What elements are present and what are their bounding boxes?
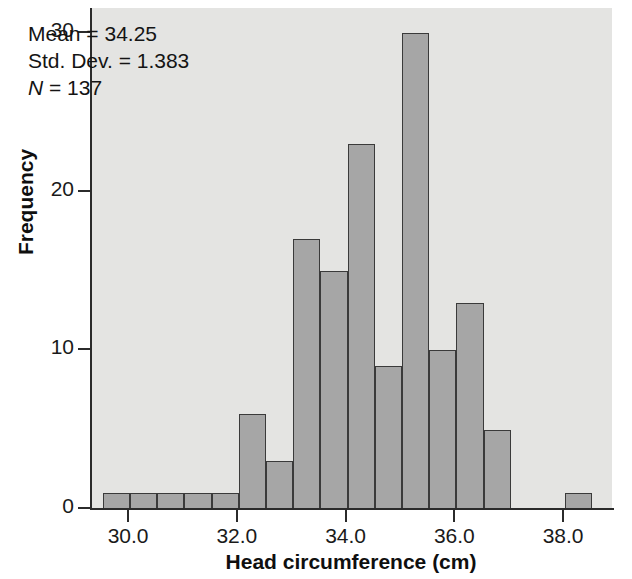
histogram-bar xyxy=(266,461,293,509)
stats-n-value: = 137 xyxy=(43,76,102,99)
histogram-bar xyxy=(348,144,375,509)
x-axis-tick-label: 34.0 xyxy=(306,524,386,548)
stats-annotation: Mean = 34.25 Std. Dev. = 1.383 N = 137 xyxy=(28,20,189,101)
stats-n: N = 137 xyxy=(28,74,189,101)
histogram-bar xyxy=(484,430,511,509)
stats-mean: Mean = 34.25 xyxy=(28,20,189,47)
x-axis-tick xyxy=(345,510,347,522)
histogram-bar xyxy=(130,493,157,509)
histogram-bar xyxy=(103,493,130,509)
histogram-bar xyxy=(320,271,347,509)
y-axis-tick xyxy=(78,190,90,192)
y-axis-tick-label: 0 xyxy=(34,494,74,518)
y-axis-title: Frequency xyxy=(14,92,38,312)
histogram-bar xyxy=(184,493,211,509)
x-axis-tick xyxy=(562,510,564,522)
histogram-figure: Frequency 0102030 30.032.034.036.038.0 H… xyxy=(0,0,632,579)
x-axis-tick-label: 38.0 xyxy=(523,524,603,548)
histogram-bar xyxy=(375,366,402,509)
histogram-bar xyxy=(565,493,592,509)
histogram-bar xyxy=(429,350,456,509)
histogram-bar xyxy=(402,33,429,509)
x-axis-tick-label: 30.0 xyxy=(88,524,168,548)
x-axis-tick xyxy=(453,510,455,522)
histogram-bar xyxy=(239,414,266,509)
x-axis-title: Head circumference (cm) xyxy=(90,550,612,574)
y-axis-tick xyxy=(78,507,90,509)
y-axis-tick-label: 10 xyxy=(34,335,74,359)
y-axis-tick xyxy=(78,348,90,350)
stats-std-dev: Std. Dev. = 1.383 xyxy=(28,47,189,74)
histogram-bar xyxy=(293,239,320,509)
x-axis-tick xyxy=(127,510,129,522)
stats-n-symbol: N xyxy=(28,76,43,99)
y-axis-tick-label: 20 xyxy=(34,177,74,201)
x-axis-tick-label: 36.0 xyxy=(414,524,494,548)
histogram-bar xyxy=(456,303,483,509)
histogram-bar xyxy=(212,493,239,509)
x-axis-tick xyxy=(236,510,238,522)
x-axis-tick-label: 32.0 xyxy=(197,524,277,548)
x-axis-line xyxy=(90,508,614,510)
histogram-bar xyxy=(157,493,184,509)
